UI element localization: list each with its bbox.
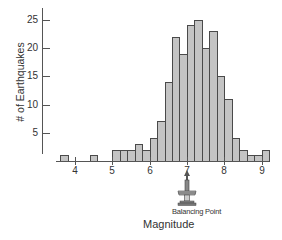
y-tick-mark <box>43 105 50 106</box>
x-tick-label: 5 <box>105 166 119 176</box>
x-tick-label: 6 <box>143 166 157 176</box>
fulcrum-icon <box>175 168 199 208</box>
x-axis-label: Magnitude <box>143 218 194 230</box>
y-tick-mark <box>43 133 50 134</box>
y-tick-mark <box>43 76 50 77</box>
balancing-point-label: Balancing Point <box>172 207 221 216</box>
x-tick-label: 8 <box>217 166 231 176</box>
x-axis-line <box>56 161 269 162</box>
x-tick-mark <box>262 157 263 165</box>
x-tick-mark <box>224 157 225 165</box>
y-axis-label: # of Earthquakes <box>14 42 26 121</box>
x-tick-mark <box>112 157 113 165</box>
x-tick-mark <box>187 157 188 165</box>
x-tick-mark <box>75 157 76 165</box>
histogram-chart: 510152025 456789 # of Earthquakes Magnit… <box>0 0 282 240</box>
y-tick-label: 5 <box>18 128 38 138</box>
y-tick-label: 25 <box>18 15 38 25</box>
y-tick-mark <box>43 20 50 21</box>
x-tick-mark <box>150 157 151 165</box>
y-tick-mark <box>43 48 50 49</box>
x-tick-label: 4 <box>68 166 82 176</box>
x-tick-label: 9 <box>255 166 269 176</box>
